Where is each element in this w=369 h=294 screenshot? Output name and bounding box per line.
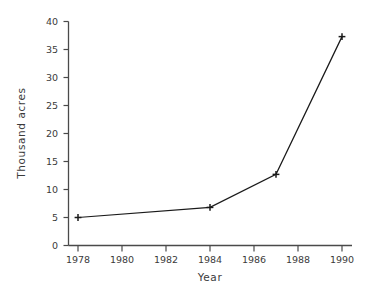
y-tick-label: 40 — [46, 16, 58, 27]
x-tick-label: 1978 — [66, 254, 90, 265]
x-tick-label: 1988 — [286, 254, 310, 265]
y-tick-label: 10 — [46, 184, 58, 195]
y-tick-label: 15 — [46, 156, 58, 167]
x-tick-label: 1984 — [198, 254, 222, 265]
y-tick-label: 0 — [52, 240, 58, 251]
x-tick-label: 1980 — [110, 254, 134, 265]
y-tick-label: 35 — [46, 44, 58, 55]
y-tick-label: 20 — [46, 128, 58, 139]
chart-container: 0510152025303540 19781980198219841986198… — [0, 0, 369, 294]
x-tick-label: 1990 — [330, 254, 354, 265]
y-tick-label: 5 — [52, 212, 58, 223]
y-tick-label: 30 — [46, 72, 58, 83]
line-chart: 0510152025303540 19781980198219841986198… — [0, 0, 369, 294]
y-tick-label: 25 — [46, 100, 58, 111]
x-tick-label: 1986 — [242, 254, 266, 265]
x-axis-title: Year — [197, 271, 223, 283]
x-tick-label: 1982 — [154, 254, 178, 265]
y-axis-title: Thousand acres — [15, 87, 27, 179]
